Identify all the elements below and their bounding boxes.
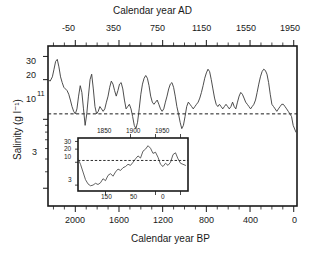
plot-canvas xyxy=(0,0,322,254)
figure-salinity-reconstruction: Calendar year AD -50 350 750 1150 1550 1… xyxy=(0,0,322,254)
inset-background xyxy=(78,138,188,191)
main-series-line xyxy=(48,59,296,132)
